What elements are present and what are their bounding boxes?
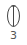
tool-button[interactable]: 3 — [0, 0, 27, 45]
tool-label: 3 — [0, 29, 27, 42]
ellipse-axis-icon — [6, 3, 21, 28]
